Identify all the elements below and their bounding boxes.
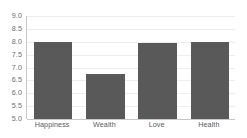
bar [86, 74, 125, 119]
x-axis-category-label: Health [183, 121, 235, 128]
bar-series [27, 16, 235, 119]
y-axis-tick-label: 6.5 [12, 77, 22, 84]
y-axis-tick-label: 8.0 [12, 38, 22, 45]
bar [191, 42, 230, 119]
bar [138, 43, 177, 119]
plot-area [26, 16, 235, 119]
y-axis-tick-label: 7.0 [12, 64, 22, 71]
y-axis-tick-label: 9.0 [12, 12, 22, 19]
y-axis-tick-label: 8.5 [12, 25, 22, 32]
bar [34, 42, 73, 119]
y-axis-tick-label: 6.0 [12, 90, 22, 97]
y-axis-tick-label: 5.5 [12, 103, 22, 110]
bar-chart: 9.08.58.07.57.06.56.05.55.0 HappinessWea… [0, 0, 247, 138]
x-axis-category-label: Love [131, 121, 183, 128]
x-axis: HappinessWealthLoveHealth [26, 121, 235, 137]
y-axis: 9.08.58.07.57.06.56.05.55.0 [0, 0, 24, 138]
y-axis-tick-label: 7.5 [12, 51, 22, 58]
y-axis-tick-label: 5.0 [12, 115, 22, 122]
x-axis-category-label: Happiness [26, 121, 78, 128]
x-axis-category-label: Wealth [78, 121, 130, 128]
